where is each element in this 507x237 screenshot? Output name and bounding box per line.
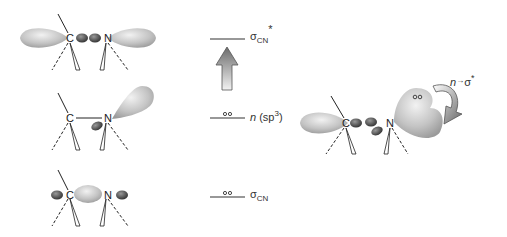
sigma-orbital: C N [51,170,128,226]
nitrogen-label: N [104,32,112,44]
energy-level-sigma: σCN [210,188,269,203]
sigma-star-orbital: C N [20,14,156,70]
carbon-label: C [66,189,74,201]
hyperconjugation-orbital: C N [300,88,443,154]
energy-level-sigma-star: σCN* [210,23,273,45]
nitrogen-label: N [386,117,394,129]
svg-text:n (sp3): n (sp3) [250,109,283,123]
carbon-label: C [342,117,350,129]
nitrogen-label: N [104,112,112,124]
n-sp3-orbital: C N [52,86,154,150]
carbon-label: C [66,112,74,124]
svg-text:σCN*: σCN* [250,23,273,45]
svg-text:σCN: σCN [250,188,269,203]
energy-level-n-sp3: n (sp3) [210,109,283,123]
nitrogen-label: N [104,189,112,201]
excitation-arrow [216,47,238,90]
carbon-label: C [66,32,74,44]
orbital-diagram: C N C N C N σCN* n (sp3) [0,0,507,237]
transition-label: n→σ* [450,73,475,88]
